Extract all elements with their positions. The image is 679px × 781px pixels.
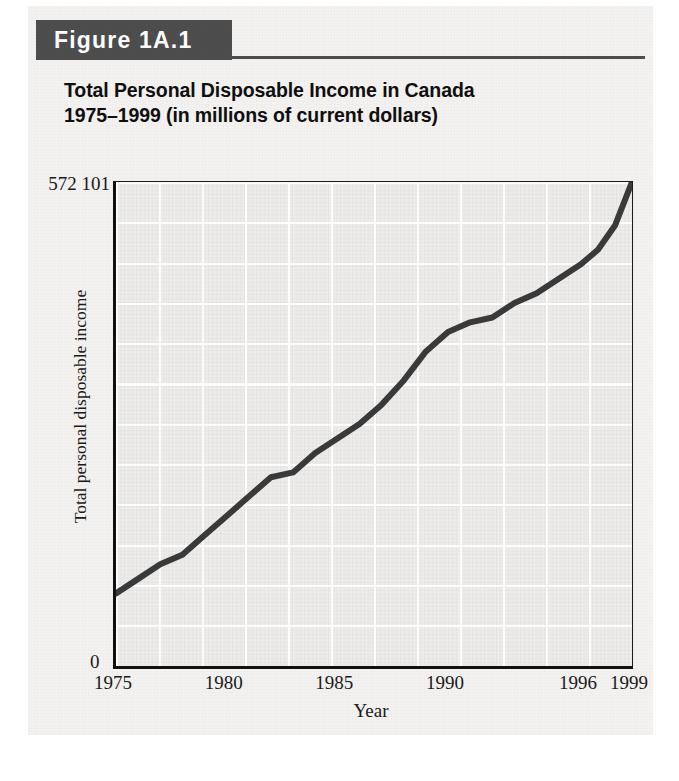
chart-title: Total Personal Disposable Income in Cana… [64,78,624,128]
figure-number-banner: Figure 1A.1 [36,20,232,60]
chart-title-line-1: Total Personal Disposable Income in Cana… [64,79,474,101]
x-axis-tick-1980: 1980 [205,672,243,694]
x-axis-tick-1985: 1985 [315,672,353,694]
banner-divider-rule [232,56,645,59]
figure-number-label: Figure 1A.1 [36,27,192,54]
x-axis-tick-1999: 1999 [610,672,648,694]
plot-area [113,181,633,669]
page-background: Figure 1A.1 Total Personal Disposable In… [0,0,679,781]
y-axis-max-tick: 572 101 [46,173,110,195]
y-axis-max-tick-label: 572 101 [48,173,110,194]
figure-card: Figure 1A.1 Total Personal Disposable In… [28,6,653,735]
y-axis-title: Total personal disposable income [70,257,91,557]
x-axis-title: Year [113,700,629,722]
x-axis-tick-labels: 197519801985199019961999 [113,672,629,696]
data-line-chart [116,182,632,666]
x-axis-tick-1990: 1990 [426,672,464,694]
x-axis-tick-1975: 1975 [94,672,132,694]
y-axis-zero-tick-label: 0 [90,651,100,673]
x-axis-tick-1996: 1996 [559,672,597,694]
series-line-total-personal-disposable-income [116,182,632,593]
chart-title-line-2: 1975–1999 (in millions of current dollar… [64,103,624,128]
